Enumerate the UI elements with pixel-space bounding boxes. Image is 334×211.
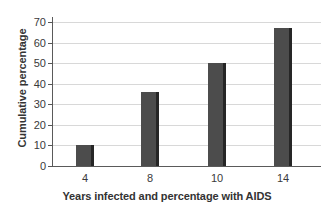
x-axis-tick-label: 14 [263, 172, 303, 184]
y-axis-tick-mark [48, 63, 53, 64]
y-axis-tick-mark [48, 84, 53, 85]
x-axis-tick-label: 8 [130, 172, 170, 184]
bar [274, 28, 292, 166]
y-axis-tick-label: 70 [22, 17, 46, 27]
bar [208, 63, 226, 166]
bar-chart: Cumulative percentage 010203040506070 Ye… [0, 0, 334, 211]
plot-area [53, 18, 321, 166]
x-axis-tick-label: 10 [197, 172, 237, 184]
y-axis-tick-labels: 010203040506070 [22, 0, 46, 211]
bar [141, 92, 159, 166]
y-axis-tick-label: 0 [22, 161, 46, 171]
y-axis-tick-label: 50 [22, 58, 46, 68]
gridline [53, 22, 321, 23]
y-axis-tick-mark [48, 43, 53, 44]
y-axis-tick-mark [48, 166, 53, 167]
bar [76, 145, 94, 166]
x-axis-title: Years infected and percentage with AIDS [0, 190, 334, 202]
y-axis-tick-mark [48, 104, 53, 105]
y-axis-tick-label: 40 [22, 79, 46, 89]
y-axis-tick-label: 30 [22, 99, 46, 109]
y-axis-tick-label: 20 [22, 120, 46, 130]
y-axis-tick-label: 10 [22, 140, 46, 150]
x-axis-tick-label: 4 [65, 172, 105, 184]
x-axis-line [52, 166, 321, 167]
y-axis-tick-mark [48, 22, 53, 23]
y-axis-tick-mark [48, 145, 53, 146]
y-axis-tick-mark [48, 125, 53, 126]
y-axis-tick-label: 60 [22, 38, 46, 48]
